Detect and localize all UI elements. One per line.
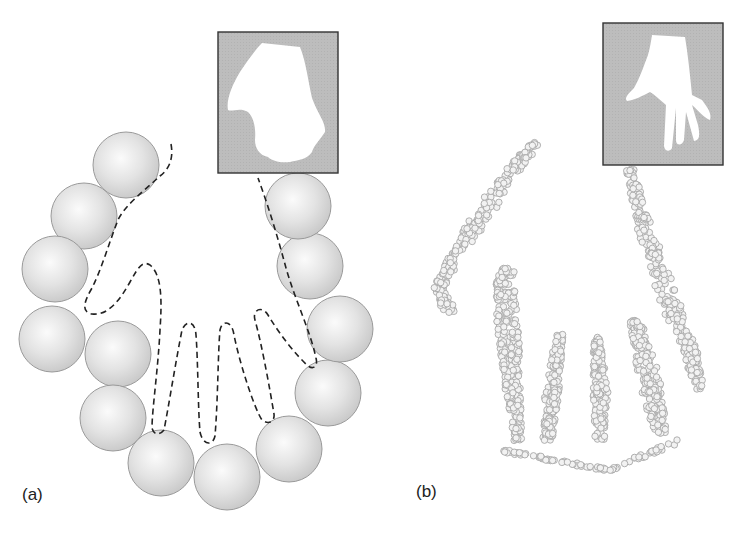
inset-hand [603,23,723,165]
sphere [22,236,88,302]
sphere [295,360,361,426]
sphere-chain [19,132,373,510]
sphere [307,296,373,362]
panel-label-b: (b) [416,482,437,502]
sphere [85,321,151,387]
sphere [194,444,260,510]
panel-label-a: (a) [22,485,43,505]
sphere [128,430,194,496]
panel-b [431,23,723,473]
figure-canvas [0,0,744,533]
sphere [19,306,85,372]
panel-a [19,32,373,510]
inset-deformed-hand [218,32,338,173]
particle-cloud [431,139,705,473]
sphere [277,233,343,299]
sphere [256,416,322,482]
sphere [93,132,159,198]
